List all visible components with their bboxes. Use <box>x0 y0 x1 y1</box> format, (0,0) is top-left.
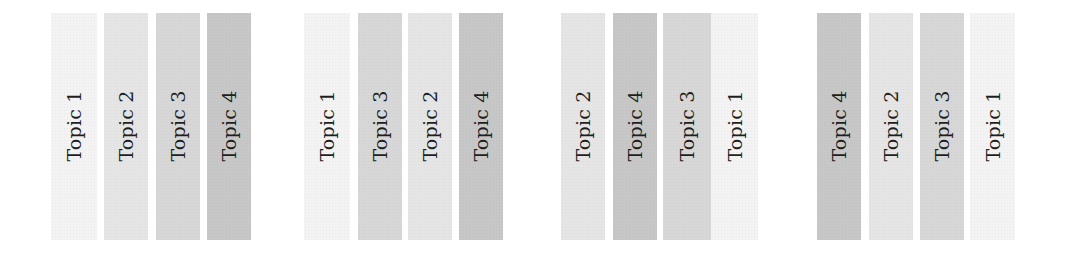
topic-label: Topic 4 <box>218 90 240 161</box>
topic-strip: Topic 1 <box>51 13 97 240</box>
topic-strip: Topic 3 <box>358 13 402 240</box>
topic-label: Topic 1 <box>982 90 1004 161</box>
arrangement-group-2: Topic 1 Topic 3 Topic 2 Topic 4 <box>304 13 504 240</box>
topic-label: Topic 4 <box>624 90 646 161</box>
topic-strip: Topic 1 <box>711 13 758 240</box>
topic-strip: Topic 4 <box>459 13 503 240</box>
topic-arrangements-diagram: Topic 1 Topic 2 Topic 3 Topic 4 Topic 1 … <box>0 0 1065 258</box>
topic-strip: Topic 3 <box>156 13 200 240</box>
topic-label: Topic 2 <box>572 90 594 161</box>
topic-label: Topic 4 <box>828 90 850 161</box>
arrangement-group-1: Topic 1 Topic 2 Topic 3 Topic 4 <box>51 13 251 240</box>
topic-strip: Topic 4 <box>817 13 861 240</box>
topic-strip: Topic 2 <box>561 13 605 240</box>
topic-label: Topic 3 <box>369 90 391 161</box>
topic-strip: Topic 2 <box>869 13 913 240</box>
topic-strip: Topic 4 <box>613 13 657 240</box>
topic-label: Topic 3 <box>676 90 698 161</box>
topic-label: Topic 1 <box>724 90 746 161</box>
topic-label: Topic 3 <box>931 90 953 161</box>
topic-strip: Topic 2 <box>408 13 452 240</box>
arrangement-group-4: Topic 4 Topic 2 Topic 3 Topic 1 <box>817 13 1017 240</box>
topic-strip: Topic 3 <box>920 13 964 240</box>
topic-strip: Topic 4 <box>207 13 251 240</box>
topic-strip: Topic 2 <box>104 13 148 240</box>
topic-label: Topic 2 <box>115 90 137 161</box>
topic-label: Topic 2 <box>419 90 441 161</box>
topic-label: Topic 1 <box>316 90 338 161</box>
topic-label: Topic 4 <box>470 90 492 161</box>
topic-label: Topic 1 <box>63 90 85 161</box>
topic-strip: Topic 1 <box>970 13 1015 240</box>
arrangement-group-3: Topic 2 Topic 4 Topic 3 Topic 1 <box>561 13 761 240</box>
topic-label: Topic 2 <box>880 90 902 161</box>
topic-label: Topic 3 <box>167 90 189 161</box>
topic-strip: Topic 1 <box>304 13 350 240</box>
topic-strip: Topic 3 <box>663 13 711 240</box>
